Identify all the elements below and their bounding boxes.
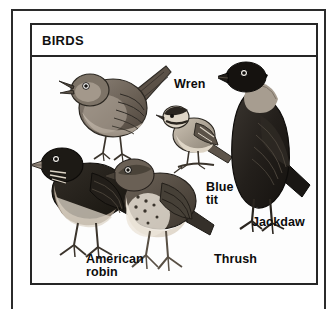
- bird-label-wren: Wren: [174, 78, 205, 91]
- birds-illustration-plate: BIRDS: [30, 23, 318, 285]
- bird-label-american-robin: American robin: [86, 253, 144, 279]
- bird-figure-jackdaw: [218, 57, 316, 237]
- bird-label-jackdaw: Jackdaw: [252, 216, 305, 229]
- plate-header: BIRDS: [32, 25, 316, 57]
- plate-title: BIRDS: [42, 33, 84, 48]
- plate-body: Wren Blue tit Jackdaw American robin Thr…: [32, 57, 316, 283]
- bird-label-thrush: Thrush: [214, 253, 257, 266]
- bird-label-blue-tit: Blue tit: [206, 181, 234, 207]
